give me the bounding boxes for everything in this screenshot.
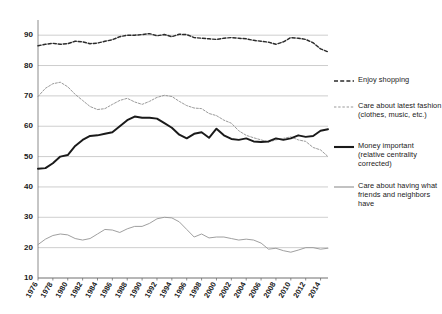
data-series-layer — [38, 34, 328, 253]
solid-thin-swatch-icon — [334, 181, 354, 193]
y-tick-label: 20 — [24, 243, 33, 252]
legend-item-money-important: Money important (relative centrality cor… — [334, 141, 442, 169]
legend-item-enjoy-shopping: Enjoy shopping — [334, 75, 442, 87]
line-chart: 102030405060708090 197619781980198219841… — [0, 0, 442, 314]
y-tick-label: 60 — [24, 121, 33, 130]
legend-label: Enjoy shopping — [358, 75, 409, 84]
dashed-dark-swatch-icon — [334, 75, 354, 87]
x-tick-label: 1982 — [68, 281, 84, 300]
x-tick-label: 1998 — [187, 281, 203, 300]
solid-thick-swatch-icon — [334, 141, 354, 153]
x-tick-label: 2012 — [291, 281, 307, 300]
gridlines — [38, 35, 328, 278]
series-line-0 — [38, 34, 328, 52]
legend-item-care-latest-fashion: Care about latest fashion (clothes, musi… — [334, 101, 442, 119]
x-tick-label: 2006 — [247, 281, 263, 300]
x-tick-label: 2014 — [306, 280, 323, 300]
x-tick-label: 2004 — [232, 280, 249, 300]
series-line-3 — [38, 217, 328, 252]
x-tick-label: 1994 — [157, 280, 174, 300]
dashed-light-swatch-icon — [334, 101, 354, 113]
x-tick-label: 2008 — [262, 281, 278, 300]
x-tick-label: 1980 — [53, 281, 69, 300]
x-tick-label: 2002 — [217, 281, 233, 300]
x-tick-label: 1988 — [113, 281, 129, 300]
x-tick-label: 2000 — [202, 281, 218, 300]
x-tick-label: 1984 — [83, 280, 100, 300]
x-axis-tick-labels: 1976197819801982198419861988199019921994… — [24, 280, 323, 300]
y-tick-label: 90 — [24, 30, 33, 39]
series-line-1 — [38, 82, 328, 156]
x-tick-label: 1992 — [143, 281, 159, 300]
x-tick-label: 1978 — [38, 281, 54, 300]
legend-item-care-friends-neighbors: Care about having what friends and neigh… — [334, 181, 442, 209]
y-tick-label: 50 — [24, 152, 33, 161]
x-tick-label: 1990 — [128, 281, 144, 300]
chart-legend: Enjoy shopping Care about latest fashion… — [334, 0, 442, 314]
legend-label: Care about latest fashion (clothes, musi… — [358, 101, 442, 119]
legend-label: Money important (relative centrality cor… — [358, 141, 442, 169]
x-tick-label: 1976 — [24, 281, 40, 300]
y-tick-label: 40 — [24, 182, 33, 191]
series-line-2 — [38, 117, 328, 169]
y-tick-label: 30 — [24, 212, 33, 221]
legend-label: Care about having what friends and neigh… — [358, 181, 442, 209]
axis-lines — [38, 20, 328, 281]
x-tick-label: 2010 — [276, 281, 292, 300]
x-tick-label: 1986 — [98, 281, 114, 300]
y-tick-label: 80 — [24, 61, 33, 70]
y-axis-tick-labels: 102030405060708090 — [24, 30, 33, 282]
x-tick-label: 1996 — [172, 281, 188, 300]
y-tick-label: 70 — [24, 91, 33, 100]
